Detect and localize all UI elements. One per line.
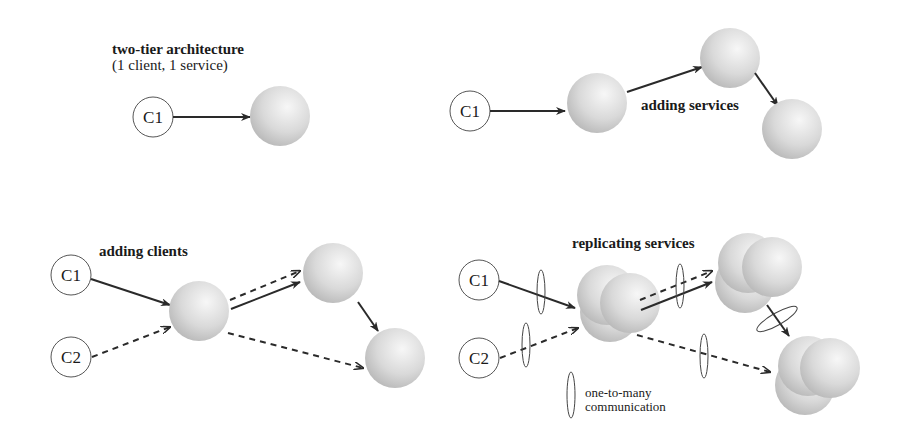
legend-line-2: communication bbox=[585, 400, 666, 414]
service-sphere-2 bbox=[700, 28, 760, 88]
replicated-service-cluster-3 bbox=[775, 336, 860, 415]
multicast-ellipse bbox=[676, 264, 684, 308]
service-sphere-2 bbox=[303, 243, 363, 303]
panel-adding-services: C1 bbox=[450, 28, 822, 159]
svg-text:C2: C2 bbox=[61, 348, 81, 367]
multicast-ellipse bbox=[522, 323, 530, 367]
svg-text:C1: C1 bbox=[469, 271, 489, 290]
service-sphere bbox=[250, 86, 310, 146]
svg-text:C1: C1 bbox=[61, 266, 81, 285]
svg-text:C1: C1 bbox=[460, 102, 480, 121]
svg-text:C2: C2 bbox=[469, 349, 489, 368]
panel-adding-clients: C1 C2 bbox=[51, 243, 425, 388]
service-sphere-3 bbox=[762, 99, 822, 159]
service-sphere-1 bbox=[567, 73, 627, 133]
replicating-services-title: replicating services bbox=[572, 235, 695, 252]
replicated-service-cluster-1 bbox=[577, 265, 660, 342]
legend-text: one-to-many communication bbox=[585, 386, 666, 414]
adding-services-title: adding services bbox=[641, 97, 739, 114]
replicated-service-cluster-2 bbox=[715, 233, 802, 313]
legend-line-1: one-to-many bbox=[585, 386, 666, 400]
adding-clients-title: adding clients bbox=[99, 243, 188, 260]
legend-ellipse-icon bbox=[567, 372, 575, 418]
client-label-c1: C1 bbox=[143, 108, 163, 127]
panel-two-tier: C1 bbox=[133, 86, 310, 146]
two-tier-title: two-tier architecture bbox=[112, 41, 244, 58]
two-tier-subtitle: (1 client, 1 service) bbox=[112, 57, 228, 74]
multicast-ellipse bbox=[537, 270, 545, 314]
service-sphere-1 bbox=[169, 281, 229, 341]
multicast-ellipse bbox=[700, 334, 708, 378]
service-sphere-3 bbox=[365, 328, 425, 388]
